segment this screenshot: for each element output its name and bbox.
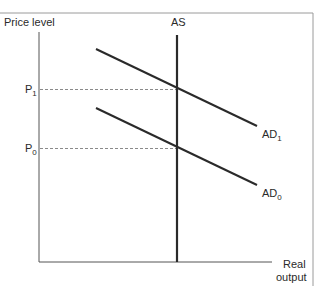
p0-label: P0 — [25, 142, 37, 157]
frame-border — [0, 13, 313, 286]
x-axis-label-line2: output — [276, 271, 307, 283]
x-axis-label-line1: Real — [283, 258, 306, 270]
as-ad-diagram: Price level AS P1 P0 AD1 AD0 Real output — [0, 0, 322, 286]
y-axis-label: Price level — [4, 16, 55, 28]
p1-label: P1 — [25, 83, 37, 98]
ad0-label: AD0 — [262, 187, 282, 202]
as-label: AS — [171, 16, 186, 28]
ad1-label: AD1 — [262, 128, 282, 143]
